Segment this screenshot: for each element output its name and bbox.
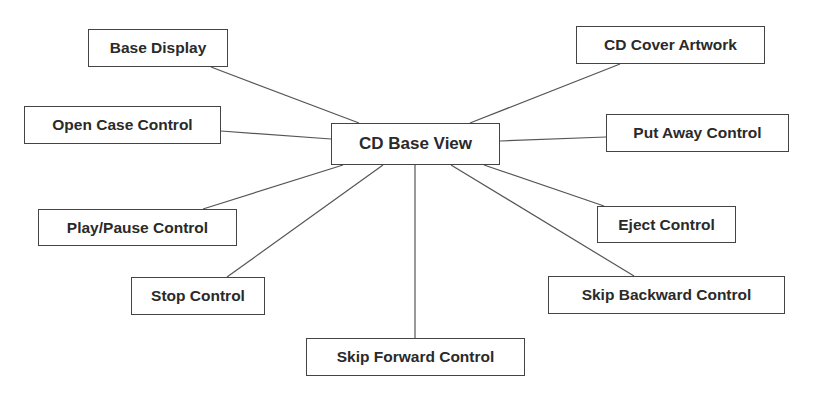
node-open-case-control: Open Case Control [24, 106, 221, 144]
node-put-away-control: Put Away Control [606, 114, 789, 152]
node-cd-cover-artwork: CD Cover Artwork [576, 26, 765, 64]
node-base-display: Base Display [88, 29, 228, 67]
node-cd-base-view: CD Base View [331, 123, 500, 165]
connector-base-display [211, 67, 359, 123]
connector-cd-cover-artwork [470, 64, 620, 123]
node-play-pause-control: Play/Pause Control [38, 209, 237, 246]
connector-put-away-control [500, 137, 606, 141]
connector-open-case-control [221, 131, 331, 139]
node-stop-control: Stop Control [131, 277, 265, 315]
node-skip-forward-control: Skip Forward Control [306, 338, 525, 376]
connector-stop-control [227, 165, 383, 277]
node-skip-backward-control: Skip Backward Control [548, 276, 785, 314]
node-eject-control: Eject Control [597, 206, 736, 243]
diagram-canvas: CD Base View Base Display CD Cover Artwo… [0, 0, 818, 398]
connector-eject-control [484, 165, 604, 206]
connector-play-pause-control [203, 165, 343, 209]
